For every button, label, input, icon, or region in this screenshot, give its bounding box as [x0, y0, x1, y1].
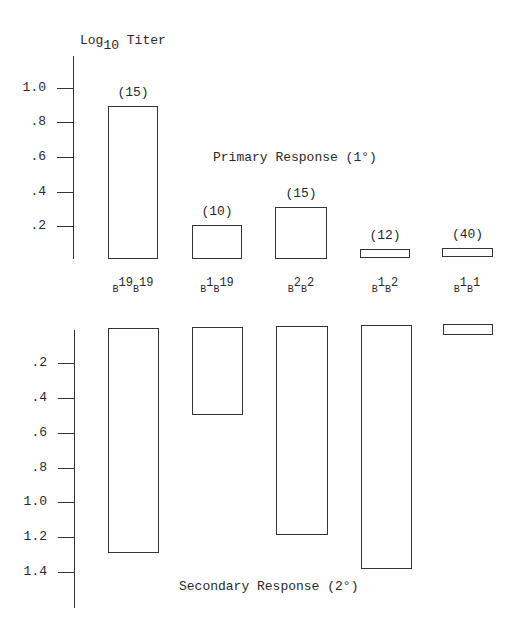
- category-label: B2B2: [266, 283, 336, 295]
- primary-bar: [275, 207, 327, 259]
- category-label: B1B2: [350, 283, 420, 295]
- secondary-y-axis: [74, 330, 75, 608]
- primary-bar: [192, 225, 242, 259]
- primary-tick: [57, 157, 73, 158]
- allele-superscript: 2: [294, 276, 301, 290]
- secondary-bar: [192, 327, 243, 415]
- primary-tick: [57, 192, 73, 193]
- primary-tick-label: .4: [6, 185, 46, 198]
- allele-superscript: 19: [219, 276, 233, 290]
- allele-superscript: 1: [460, 276, 467, 290]
- primary-tick: [57, 226, 73, 227]
- primary-bar: [108, 106, 158, 259]
- primary-tick-label: .2: [6, 219, 46, 232]
- sample-count-label: (15): [271, 187, 331, 200]
- primary-bar: [360, 249, 410, 258]
- primary-tick-label: .6: [6, 150, 46, 163]
- secondary-tick: [58, 537, 74, 538]
- primary-response-label: Primary Response (1°): [213, 151, 377, 164]
- secondary-response-label: Secondary Response (2°): [179, 580, 358, 593]
- secondary-tick: [58, 502, 74, 503]
- allele-superscript: 1: [473, 276, 480, 290]
- secondary-tick: [58, 572, 74, 573]
- primary-tick-label: 1.0: [6, 81, 46, 94]
- sample-count-label: (15): [103, 86, 163, 99]
- primary-bar: [442, 248, 493, 257]
- sample-count-label: (10): [187, 205, 247, 218]
- y-axis-title: Log10 Titer: [80, 34, 166, 47]
- primary-tick-label: .8: [6, 115, 46, 128]
- secondary-tick-label: 1.0: [7, 495, 47, 508]
- allele-superscript: 19: [119, 276, 133, 290]
- secondary-tick-label: 1.4: [7, 565, 47, 578]
- secondary-tick: [58, 433, 74, 434]
- allele-superscript: 1: [378, 276, 385, 290]
- y-axis-title-rest: Titer: [119, 33, 166, 48]
- primary-y-axis: [73, 56, 74, 259]
- allele-superscript: 2: [391, 276, 398, 290]
- secondary-bar: [276, 326, 328, 535]
- secondary-tick-label: .8: [7, 461, 47, 474]
- secondary-tick-label: .6: [7, 426, 47, 439]
- category-label: B1B19: [182, 283, 252, 295]
- secondary-tick-label: 1.2: [7, 530, 47, 543]
- y-axis-title-subscript: 10: [103, 38, 119, 53]
- secondary-tick-label: .4: [7, 391, 47, 404]
- allele-superscript: 19: [139, 276, 153, 290]
- secondary-tick-label: .2: [7, 356, 47, 369]
- y-axis-title-base: Log: [80, 33, 103, 48]
- sample-count-label: (12): [355, 229, 415, 242]
- secondary-bar: [443, 324, 493, 335]
- primary-tick: [57, 122, 73, 123]
- category-label: B19B19: [98, 283, 168, 295]
- sample-count-label: (40): [438, 228, 498, 241]
- secondary-bar: [108, 328, 159, 553]
- allele-superscript: 2: [307, 276, 314, 290]
- secondary-tick: [58, 363, 74, 364]
- secondary-bar: [361, 325, 412, 569]
- primary-tick: [57, 88, 73, 89]
- category-label: B1B1: [432, 283, 502, 295]
- secondary-tick: [58, 398, 74, 399]
- secondary-tick: [58, 468, 74, 469]
